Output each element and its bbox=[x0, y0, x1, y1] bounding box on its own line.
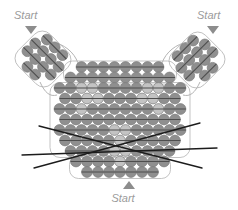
face-beads bbox=[54, 62, 186, 178]
left-ear bbox=[10, 26, 75, 91]
bead-pattern-canvas: Start Start Start bbox=[0, 0, 238, 210]
start-label-top-left: Start bbox=[14, 9, 38, 21]
beading-diagram: Start Start Start bbox=[0, 0, 238, 210]
start-label-bottom: Start bbox=[111, 192, 135, 204]
start-arrow-top-right-icon bbox=[207, 26, 219, 34]
start-label-top-right: Start bbox=[197, 9, 221, 21]
start-arrow-top-left-icon bbox=[25, 26, 37, 34]
start-arrow-bottom-icon bbox=[123, 181, 135, 189]
